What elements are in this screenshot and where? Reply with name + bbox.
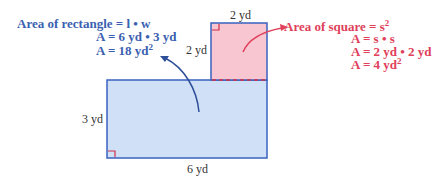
square-left-label: 2 yd	[186, 43, 207, 57]
square-shape	[211, 23, 267, 80]
square-formula-line4: A = 4 yd2	[351, 56, 402, 72]
composite-area-diagram: 6 yd 3 yd 2 yd 2 yd Area of rectangle = …	[0, 0, 439, 180]
rect-width-label: 6 yd	[187, 162, 208, 176]
rect-formula-line3: A = 18 yd2	[96, 42, 154, 58]
rectangle-shape	[107, 80, 267, 158]
square-top-label: 2 yd	[230, 8, 251, 22]
rect-formula-line2: A = 6 yd • 3 yd	[96, 29, 177, 44]
rect-height-label: 3 yd	[82, 112, 103, 126]
